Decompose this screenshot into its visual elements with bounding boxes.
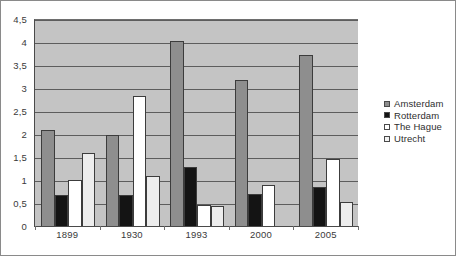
legend-item-rotterdam[interactable]: Rotterdam (384, 110, 456, 122)
bar-the-hague-1930[interactable] (133, 96, 147, 227)
y-axis-tick-label: 2 (22, 129, 27, 140)
bar-amsterdam-2000[interactable] (235, 80, 249, 227)
bar-amsterdam-1993[interactable] (170, 41, 184, 227)
y-axis-tick-labels: 4,543,532,521,510,50 (1, 1, 31, 256)
bar-the-hague-2005[interactable] (326, 159, 340, 227)
bar-rotterdam-2005[interactable] (313, 187, 327, 227)
bar-utrecht-1899[interactable] (82, 153, 96, 227)
legend-swatch-icon (384, 124, 390, 130)
bar-group-bars (229, 20, 294, 227)
bar-the-hague-1899[interactable] (68, 180, 82, 227)
bar-group-1993 (164, 20, 229, 227)
bar-rotterdam-1930[interactable] (119, 195, 133, 227)
legend-item-label: The Hague (394, 121, 442, 132)
y-axis-tick-label: 1,5 (13, 152, 27, 163)
x-axis-tick-label-2000: 2000 (229, 229, 294, 240)
legend-swatch-icon (384, 112, 390, 118)
bar-group-bars (164, 20, 229, 227)
y-axis-tick-label: 3 (22, 83, 27, 94)
chart-legend: AmsterdamRotterdamThe HagueUtrecht (384, 98, 456, 144)
y-axis-tick-label: 4 (22, 37, 27, 48)
bar-group-2000 (229, 20, 294, 227)
bar-group-bars (100, 20, 165, 227)
bar-group-bars (35, 20, 100, 227)
legend-swatch-icon (384, 101, 390, 107)
bar-group-bars (293, 20, 358, 227)
bar-utrecht-1930[interactable] (146, 176, 160, 227)
bar-the-hague-2000[interactable] (262, 185, 276, 227)
x-axis-tick-label-1930: 1930 (100, 229, 165, 240)
y-axis-tick-label: 2,5 (13, 106, 27, 117)
x-axis-tick-labels: 18991930199320002005 (35, 229, 358, 240)
y-axis-tick-label: 0,5 (13, 198, 27, 209)
bar-rotterdam-1993[interactable] (184, 167, 198, 227)
bar-amsterdam-1930[interactable] (106, 135, 120, 227)
legend-item-label: Utrecht (394, 133, 425, 144)
legend-item-amsterdam[interactable]: Amsterdam (384, 98, 456, 110)
x-axis-tickmark (358, 226, 359, 230)
y-axis-tick-label: 3,5 (13, 60, 27, 71)
legend-swatch-icon (384, 136, 390, 142)
y-axis-tick-label: 1 (22, 175, 27, 186)
plot-area (34, 19, 358, 227)
bar-utrecht-1993[interactable] (211, 206, 225, 227)
bar-group-1930 (100, 20, 165, 227)
bar-rotterdam-1899[interactable] (55, 195, 69, 227)
y-axis-tick-label: 0 (22, 221, 27, 232)
x-axis-tick-label-2005: 2005 (293, 229, 358, 240)
legend-item-the-hague[interactable]: The Hague (384, 121, 456, 133)
bar-amsterdam-1899[interactable] (41, 130, 55, 227)
x-axis-tick-label-1899: 1899 (35, 229, 100, 240)
bar-the-hague-1993[interactable] (197, 205, 211, 227)
bar-group-1899 (35, 20, 100, 227)
bar-groups (35, 20, 358, 227)
bar-rotterdam-2000[interactable] (248, 194, 262, 227)
legend-item-label: Amsterdam (394, 98, 443, 109)
y-axis-tick-label: 4,5 (13, 14, 27, 25)
legend-item-label: Rotterdam (394, 110, 439, 121)
bar-chart-figure: 4,543,532,521,510,50 1899193019932000200… (0, 0, 456, 256)
bar-utrecht-2005[interactable] (340, 202, 354, 227)
bar-amsterdam-2005[interactable] (299, 55, 313, 228)
bar-group-2005 (293, 20, 358, 227)
legend-item-utrecht[interactable]: Utrecht (384, 133, 456, 145)
x-axis-tick-label-1993: 1993 (164, 229, 229, 240)
